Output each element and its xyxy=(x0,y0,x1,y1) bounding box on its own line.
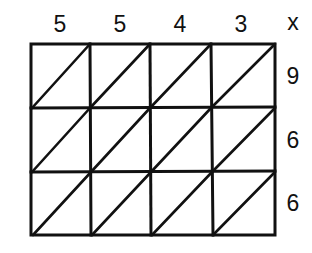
lattice-grid xyxy=(0,0,312,253)
